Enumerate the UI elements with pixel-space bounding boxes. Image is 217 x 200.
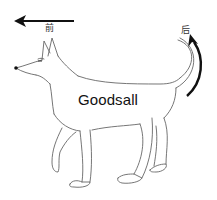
front-arrow-icon [14, 15, 74, 27]
diagram-canvas: 前 后 Goodsall [0, 0, 217, 200]
nose-icon [14, 66, 18, 70]
main-label: Goodsall [78, 92, 138, 107]
dog-outline [16, 38, 194, 187]
front-label: 前 [45, 24, 54, 33]
back-label: 后 [181, 26, 190, 35]
back-arrow-icon [187, 34, 201, 96]
